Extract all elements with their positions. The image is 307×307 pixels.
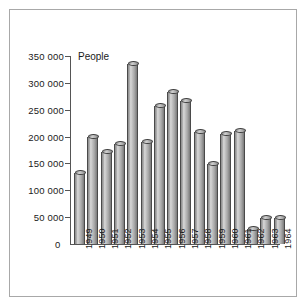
y-axis-tick-350000 — [65, 56, 70, 57]
bar-top-ellipse-1956 — [168, 89, 179, 94]
y-axis-title: People — [78, 51, 109, 62]
bar-top-ellipse-1958 — [195, 129, 206, 134]
bar-top-ellipse-1950 — [88, 134, 99, 139]
x-axis-label-1961: 1961 — [243, 228, 253, 249]
x-axis-label-1954: 1954 — [150, 228, 160, 249]
bar-top-ellipse-1951 — [102, 149, 113, 154]
y-axis-tick-300000 — [65, 83, 70, 84]
bar-chart-plot-area: People 0 50 000100 000150 000200 000250 … — [0, 0, 307, 307]
bar-top-ellipse-1954 — [142, 139, 153, 144]
y-axis-tick-250000 — [65, 110, 70, 111]
x-axis-label-1964: 1964 — [283, 228, 293, 249]
bar-top-ellipse-1961 — [235, 128, 246, 133]
bar-1961 — [234, 131, 245, 244]
y-axis-tick-200000 — [65, 137, 70, 138]
y-axis-tick-150000 — [65, 163, 70, 164]
x-axis-label-1953: 1953 — [137, 228, 147, 249]
bar-top-ellipse-1960 — [221, 131, 232, 136]
x-axis-label-1950: 1950 — [97, 228, 107, 249]
y-axis-tick-label-250000: 250 000 — [12, 104, 64, 115]
x-axis-label-1951: 1951 — [110, 228, 120, 249]
bar-1956 — [167, 92, 178, 244]
y-axis-tick-label-100000: 100 000 — [12, 185, 64, 196]
y-axis-tick-label-300000: 300 000 — [12, 77, 64, 88]
bar-top-ellipse-1953 — [128, 61, 139, 66]
x-axis-label-1958: 1958 — [203, 228, 213, 249]
y-axis-tick-50000 — [65, 217, 70, 218]
bar-1955 — [154, 106, 165, 244]
x-axis-label-1963: 1963 — [270, 228, 280, 249]
y-axis-tick-label-350000: 350 000 — [12, 51, 64, 62]
bar-1953 — [127, 64, 138, 244]
y-axis-line — [70, 56, 71, 244]
chart-figure: People 0 50 000100 000150 000200 000250 … — [0, 0, 307, 307]
y-axis-tick-label-200000: 200 000 — [12, 131, 64, 142]
bar-top-ellipse-1959 — [208, 161, 219, 166]
y-axis-tick-label-0: 0 — [55, 239, 60, 250]
x-axis-label-1949: 1949 — [84, 228, 94, 249]
x-axis-label-1957: 1957 — [190, 228, 200, 249]
bar-top-ellipse-1949 — [75, 170, 86, 175]
x-axis-label-1955: 1955 — [163, 228, 173, 249]
x-axis-label-1962: 1962 — [256, 228, 266, 249]
y-axis-tick-label-50000: 50 000 — [12, 212, 64, 223]
x-axis-label-1959: 1959 — [217, 228, 227, 249]
bar-top-ellipse-1955 — [155, 103, 166, 108]
bar-1957 — [180, 101, 191, 244]
bar-top-ellipse-1963 — [261, 215, 272, 220]
x-axis-label-1952: 1952 — [123, 228, 133, 249]
y-axis-tick-label-150000: 150 000 — [12, 158, 64, 169]
bar-top-ellipse-1952 — [115, 141, 126, 146]
x-axis-label-1960: 1960 — [230, 228, 240, 249]
x-axis-label-1956: 1956 — [177, 228, 187, 249]
y-axis-tick-100000 — [65, 190, 70, 191]
bar-top-ellipse-1957 — [181, 98, 192, 103]
bar-top-ellipse-1964 — [275, 215, 286, 220]
